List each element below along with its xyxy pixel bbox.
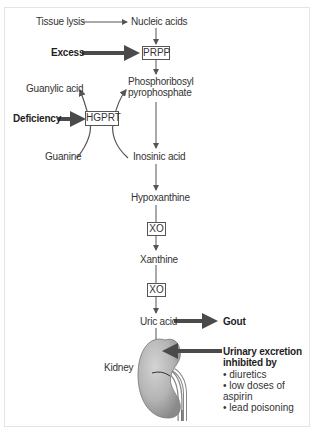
- label-excretion-title-2: inhibited by: [223, 357, 277, 368]
- node-xo-2: XO: [147, 283, 166, 297]
- label-tissue-lysis: Tissue lysis: [36, 16, 85, 27]
- node-hgprt: HGPRT: [85, 111, 119, 126]
- label-uric-acid: Uric acid: [140, 316, 177, 327]
- label-hypoxanthine: Hypoxanthine: [131, 192, 190, 203]
- list-item: lead poisoning: [223, 402, 315, 413]
- excretion-inhibitor-list: diuretics low doses of aspirin lead pois…: [223, 369, 315, 413]
- label-inosinic-acid: Inosinic acid: [133, 151, 185, 162]
- label-phosphoribosyl-1: Phosphoribosyl: [128, 76, 194, 87]
- node-xo-1: XO: [147, 222, 166, 236]
- label-guanylic-acid: Guanylic acid: [26, 83, 83, 94]
- label-excess: Excess: [51, 47, 84, 58]
- label-kidney: Kidney: [104, 362, 133, 373]
- label-guanine: Guanine: [45, 151, 81, 162]
- label-xanthine: Xanthine: [140, 254, 178, 265]
- node-prpp: PRPP: [142, 46, 170, 60]
- label-gout: Gout: [223, 316, 246, 327]
- list-item: diuretics: [223, 369, 315, 380]
- label-excretion-title-1: Urinary excretion: [223, 346, 302, 357]
- list-item: low doses of aspirin: [223, 380, 315, 402]
- label-deficiency: Deficiency: [13, 113, 61, 124]
- label-nucleic-acids: Nucleic acids: [131, 16, 187, 27]
- label-phosphoribosyl-2: pyrophosphate: [128, 87, 192, 98]
